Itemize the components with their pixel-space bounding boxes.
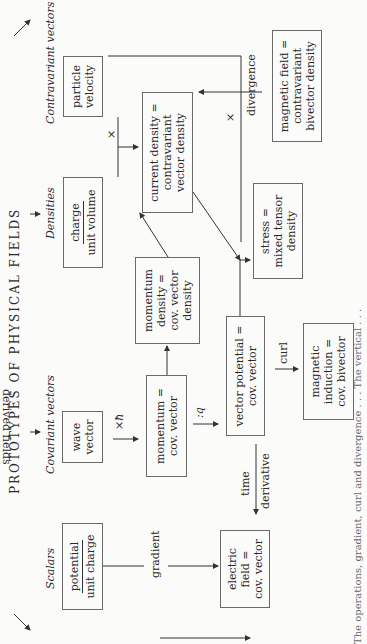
derived-fields-text: derived fields xyxy=(0,389,12,465)
label-divergence: divergence xyxy=(246,54,258,116)
category-densities: Densities xyxy=(45,187,57,239)
box-current-density: current density = contravariant vector d… xyxy=(142,92,193,213)
text-line: cov. bivector xyxy=(335,336,348,406)
text-line: contravariant xyxy=(161,115,174,191)
box-magnetic-induction: magnetic induction = cov. bivector xyxy=(303,323,354,420)
text-line: mixed tensor xyxy=(272,195,285,268)
text-line: vector density xyxy=(174,113,187,192)
text-line: contravariant xyxy=(291,48,304,124)
text-line: density = xyxy=(155,274,168,327)
label-times-hbar: ×ħ xyxy=(114,414,126,430)
diagram-page: PROTOTYPES OF PHYSICAL FIELDS Scalars Co… xyxy=(0,0,367,644)
box-magnetic-field: magnetic field = contravariant bivector … xyxy=(272,30,322,142)
label-derivative: derivative xyxy=(260,453,272,509)
box-electric-field: electric field = cov. vector xyxy=(220,530,270,608)
text-line: velocity xyxy=(83,65,96,108)
text-line: vector potential = xyxy=(233,325,246,426)
potential-denominator: unit charge xyxy=(83,534,97,598)
box-potential: potential unit charge xyxy=(62,523,103,610)
text-line: density xyxy=(285,211,298,251)
text-line: wave xyxy=(70,423,83,452)
label-time: time xyxy=(240,471,252,496)
box-wave-vector: wave vector xyxy=(62,411,103,463)
text-line: cov. vector xyxy=(167,396,180,456)
text-line: cov. vector xyxy=(168,271,181,331)
box-momentum-density: momentum density = cov. vector density xyxy=(135,257,200,344)
text-line: induction = xyxy=(322,339,335,404)
label-gradient: gradient xyxy=(150,531,162,578)
text-line: magnetic xyxy=(309,346,322,398)
text-line: magnetic field = xyxy=(278,40,291,132)
charge-denominator: unit volume xyxy=(84,190,98,256)
box-stress: stress = mixed tensor density xyxy=(253,183,303,279)
text-line: electric xyxy=(226,548,239,590)
label-times-2: × xyxy=(225,113,237,122)
box-charge: charge unit volume xyxy=(63,177,103,268)
category-contravariant: Contravariant vectors xyxy=(45,2,57,124)
category-scalars: Scalars xyxy=(45,548,57,589)
category-covariant: Covariant vectors xyxy=(45,375,57,474)
label-times-1: × xyxy=(106,130,118,139)
text-line: bivector density xyxy=(304,41,317,131)
text-line: cov. vector xyxy=(252,539,265,599)
potential-numerator: potential xyxy=(68,540,83,594)
text-line: particle xyxy=(70,65,83,108)
box-particle-velocity: particle velocity xyxy=(63,56,103,117)
text-line: density xyxy=(181,280,194,320)
figure-caption: The operations, gradient, curl and diver… xyxy=(352,309,363,644)
text-line: cov. vector xyxy=(246,346,259,406)
text-line: momentum xyxy=(142,269,155,332)
box-momentum: momentum = cov. vector xyxy=(146,375,187,477)
text-line: vector xyxy=(83,419,96,454)
text-line: stress = xyxy=(259,208,272,254)
box-vector-potential: vector potential = cov. vector xyxy=(226,316,265,436)
text-line: field = xyxy=(239,550,252,587)
text-line: current density = xyxy=(148,103,161,201)
label-curl: curl xyxy=(278,342,290,364)
label-divide-q: :q xyxy=(194,407,206,418)
text-line: momentum = xyxy=(154,388,167,464)
charge-numerator: charge xyxy=(69,201,84,244)
